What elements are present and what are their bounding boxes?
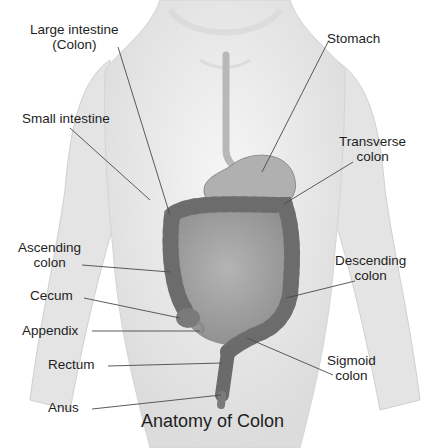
label-ascending-colon: Ascending colon	[18, 240, 81, 270]
diagram-title: Anatomy of Colon	[141, 411, 284, 432]
torso-illustration	[0, 0, 446, 448]
label-rectum: Rectum	[48, 357, 95, 372]
label-cecum: Cecum	[30, 288, 73, 303]
label-line: colon	[339, 149, 406, 164]
label-line: Large intestine	[30, 22, 119, 37]
label-stomach: Stomach	[327, 31, 380, 46]
label-line: Sigmoid	[327, 353, 376, 368]
label-line: colon	[327, 368, 376, 383]
label-large-intestine: Large intestine (Colon)	[30, 22, 119, 52]
rectum-shape	[222, 352, 228, 395]
label-line: colon	[18, 255, 81, 270]
label-small-intestine: Small intestine	[22, 111, 110, 126]
label-appendix: Appendix	[22, 323, 78, 338]
label-line: Transverse	[339, 134, 406, 149]
label-descending-colon: Descending colon	[335, 253, 406, 283]
label-line: Ascending	[18, 240, 81, 255]
label-anus: Anus	[48, 400, 79, 415]
label-line: colon	[335, 268, 406, 283]
label-line: Descending	[335, 253, 406, 268]
label-sigmoid-colon: Sigmoid colon	[327, 353, 376, 383]
label-transverse-colon: Transverse colon	[339, 134, 406, 164]
colon-anatomy-diagram: Large intestine (Colon) Stomach Small in…	[0, 0, 446, 448]
anus-shape	[221, 395, 222, 405]
label-line: (Colon)	[30, 37, 119, 52]
